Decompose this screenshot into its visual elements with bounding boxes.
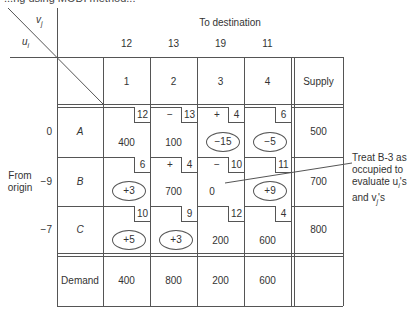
demand-value: 200 bbox=[197, 275, 244, 286]
grid-line bbox=[291, 57, 292, 306]
grid-line bbox=[57, 157, 343, 158]
cost-box: 11 bbox=[275, 157, 291, 173]
improvement-index: +3 bbox=[159, 230, 193, 250]
allocation: 400 bbox=[103, 137, 150, 148]
supply-value: 500 bbox=[294, 126, 343, 137]
cost-box: 4 bbox=[181, 157, 197, 173]
allocation: 600 bbox=[244, 235, 291, 246]
ui-value: −7 bbox=[36, 224, 52, 235]
vj-value: 12 bbox=[103, 38, 150, 49]
column-header: 4 bbox=[244, 76, 291, 87]
grid-line bbox=[103, 57, 343, 58]
vj-label: vj bbox=[36, 14, 43, 27]
vj-value: 11 bbox=[244, 38, 291, 49]
cost-box: 4 bbox=[228, 107, 244, 123]
loop-sign: + bbox=[212, 109, 222, 120]
cost-box: 12 bbox=[228, 206, 244, 222]
cost-box: 12 bbox=[134, 107, 150, 123]
grid-line bbox=[57, 206, 343, 207]
row-label-B: B bbox=[57, 176, 103, 187]
header-rule bbox=[10, 57, 110, 58]
allocation: 0 bbox=[197, 186, 227, 197]
row-label-A: A bbox=[57, 126, 103, 137]
improvement-index: −5 bbox=[253, 132, 287, 152]
grid-line bbox=[57, 306, 343, 307]
supply-value: 700 bbox=[294, 176, 343, 187]
from-origin-label: Fromorigin bbox=[2, 170, 38, 194]
cost-box: 10 bbox=[134, 206, 150, 222]
supply-value: 800 bbox=[294, 224, 343, 235]
grid-line bbox=[57, 256, 343, 257]
improvement-index: −15 bbox=[206, 132, 240, 152]
demand-value: 800 bbox=[150, 275, 197, 286]
allocation: 100 bbox=[150, 137, 197, 148]
loop-sign: + bbox=[165, 159, 175, 170]
column-header: 1 bbox=[103, 76, 150, 87]
column-header: 2 bbox=[150, 76, 197, 87]
demand-value: 600 bbox=[244, 275, 291, 286]
grid-line bbox=[150, 57, 151, 306]
improvement-index: +9 bbox=[253, 181, 287, 201]
grid-line bbox=[197, 57, 198, 306]
grid-line bbox=[57, 8, 58, 306]
cost-box: 6 bbox=[134, 157, 150, 173]
loop-sign: − bbox=[212, 159, 222, 170]
row-label-C: C bbox=[57, 224, 103, 235]
demand-value: 400 bbox=[103, 275, 150, 286]
vj-value: 19 bbox=[197, 38, 244, 49]
to-destination-label: To destination bbox=[165, 17, 295, 28]
annotation-note: Treat B-3 as occupied to evaluate ui's a… bbox=[352, 152, 407, 208]
cost-box: 6 bbox=[275, 107, 291, 123]
grid-line bbox=[57, 107, 343, 108]
grid-line bbox=[103, 57, 104, 306]
cost-box: 10 bbox=[228, 157, 244, 173]
allocation: 700 bbox=[150, 186, 197, 197]
cost-box: 9 bbox=[181, 206, 197, 222]
supply-header: Supply bbox=[294, 76, 343, 87]
grid-line bbox=[244, 57, 245, 306]
vj-value: 13 bbox=[150, 38, 197, 49]
grid-line bbox=[343, 57, 344, 306]
ui-value: −9 bbox=[36, 176, 52, 187]
loop-sign: − bbox=[165, 109, 175, 120]
ui-value: 0 bbox=[36, 126, 52, 137]
cost-box: 4 bbox=[275, 206, 291, 222]
improvement-index: +5 bbox=[112, 230, 146, 250]
improvement-index: +3 bbox=[112, 181, 146, 201]
demand-label: Demand bbox=[57, 275, 103, 286]
cost-box: 13 bbox=[181, 107, 197, 123]
allocation: 200 bbox=[197, 235, 244, 246]
grid-line bbox=[57, 104, 343, 105]
column-header: 3 bbox=[197, 76, 244, 87]
grid-line bbox=[57, 253, 343, 254]
ui-label: ui bbox=[22, 36, 29, 49]
